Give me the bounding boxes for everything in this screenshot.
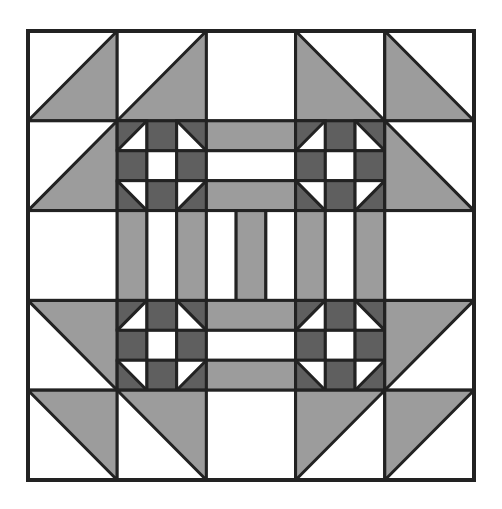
strip bbox=[266, 211, 296, 301]
strip bbox=[206, 360, 295, 390]
strip bbox=[206, 300, 295, 330]
plain-square bbox=[28, 211, 117, 301]
strip bbox=[206, 151, 295, 181]
quilt-block-diagram bbox=[0, 0, 502, 509]
strip bbox=[355, 211, 385, 301]
strip bbox=[117, 211, 147, 301]
shoofly-edge bbox=[147, 300, 177, 330]
shoofly-center bbox=[325, 151, 355, 181]
shoofly-center bbox=[325, 330, 355, 360]
shoofly-edge bbox=[147, 121, 177, 151]
shoofly-edge bbox=[325, 360, 355, 390]
strip bbox=[206, 330, 295, 360]
shoofly-edge bbox=[325, 300, 355, 330]
shoofly-edge bbox=[177, 151, 207, 181]
shoofly-edge bbox=[117, 151, 147, 181]
shoofly-edge bbox=[117, 330, 147, 360]
strip bbox=[296, 211, 326, 301]
plain-square bbox=[385, 211, 474, 301]
strip bbox=[147, 211, 177, 301]
plain-square bbox=[206, 31, 295, 121]
shoofly-edge bbox=[325, 121, 355, 151]
shoofly-edge bbox=[147, 360, 177, 390]
strip bbox=[236, 211, 266, 301]
shoofly-edge bbox=[325, 181, 355, 211]
shoofly-edge bbox=[147, 181, 177, 211]
shoofly-edge bbox=[177, 330, 207, 360]
shoofly-edge bbox=[296, 330, 326, 360]
quilt-cells bbox=[28, 31, 474, 480]
strip bbox=[206, 211, 236, 301]
strip bbox=[177, 211, 207, 301]
strip bbox=[206, 181, 295, 211]
shoofly-edge bbox=[355, 151, 385, 181]
strip bbox=[206, 121, 295, 151]
plain-square bbox=[206, 390, 295, 480]
shoofly-center bbox=[147, 151, 177, 181]
shoofly-center bbox=[147, 330, 177, 360]
strip bbox=[325, 211, 355, 301]
shoofly-edge bbox=[355, 330, 385, 360]
shoofly-edge bbox=[296, 151, 326, 181]
